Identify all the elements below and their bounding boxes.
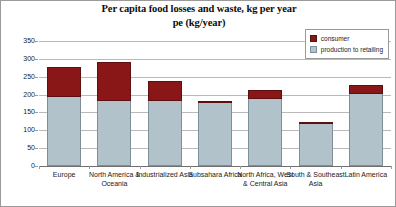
x-axis-tickmark (89, 166, 90, 169)
legend-swatch-consumer (310, 35, 317, 42)
chart-title-line-1: Per capita food losses and waste, kg per… (1, 2, 396, 16)
y-axis-tick-label-100: 100 (5, 126, 35, 133)
y-axis-tickmark-100 (35, 130, 38, 131)
bar-segment-production-to-retailing[interactable] (97, 100, 131, 166)
bar-segment-consumer[interactable] (47, 67, 81, 97)
bar-group[interactable] (47, 41, 81, 166)
bar-group[interactable] (349, 41, 383, 166)
chart-title-line-2: pe (kg/year) (1, 16, 396, 30)
y-axis-tickmark-250 (35, 77, 38, 78)
chart-title: Per capita food losses and waste, kg per… (1, 2, 396, 30)
x-axis-baseline (39, 166, 391, 167)
x-axis-tickmark (391, 166, 392, 169)
x-axis-label-6: Latin America (335, 171, 396, 180)
x-axis-tickmark (341, 166, 342, 169)
x-axis-tickmark (140, 166, 141, 169)
y-axis-tick-label-250: 250 (5, 73, 35, 80)
x-axis-tickmark (240, 166, 241, 169)
x-axis-tickmark (39, 166, 40, 169)
bar-group[interactable] (148, 41, 182, 166)
legend-item-consumer: consumer (310, 33, 383, 44)
bar-segment-consumer[interactable] (299, 122, 333, 124)
bar-segment-consumer[interactable] (248, 90, 282, 100)
chart-legend: consumer production to retailing (305, 29, 389, 59)
bar-segment-production-to-retailing[interactable] (349, 93, 383, 166)
y-axis-tick-label-0: 0 (5, 162, 35, 169)
y-axis-tickmark-150 (35, 112, 38, 113)
bar-segment-production-to-retailing[interactable] (198, 102, 232, 166)
bar-segment-consumer[interactable] (148, 81, 182, 101)
legend-swatch-production-to-retailing (310, 46, 317, 53)
y-axis-tick-label-150: 150 (5, 108, 35, 115)
x-axis-tickmark (190, 166, 191, 169)
y-axis-tickmark-200 (35, 95, 38, 96)
bar-segment-consumer[interactable] (198, 101, 232, 103)
legend-label-consumer: consumer (321, 35, 350, 42)
y-axis-tickmark-0 (35, 166, 38, 167)
bar-segment-production-to-retailing[interactable] (148, 100, 182, 166)
y-axis-tick-label-350: 350 (5, 37, 35, 44)
bar-segment-consumer[interactable] (349, 85, 383, 94)
bar-group[interactable] (198, 41, 232, 166)
bar-segment-production-to-retailing[interactable] (248, 98, 282, 166)
bar-segment-production-to-retailing[interactable] (299, 123, 333, 166)
chart-container: Per capita food losses and waste, kg per… (0, 0, 396, 207)
y-axis-tickmark-300 (35, 59, 38, 60)
bar-segment-consumer[interactable] (97, 62, 131, 101)
bar-group[interactable] (97, 41, 131, 166)
y-axis-tickmark-350 (35, 41, 38, 42)
bar-group[interactable] (248, 41, 282, 166)
plot-area (39, 41, 391, 166)
legend-label-production-to-retailing: production to retailing (321, 46, 383, 53)
y-axis-tick-label-200: 200 (5, 91, 35, 98)
y-axis-tickmark-50 (35, 148, 38, 149)
bar-segment-production-to-retailing[interactable] (47, 96, 81, 166)
y-axis-tick-label-300: 300 (5, 55, 35, 62)
bar-group[interactable] (299, 41, 333, 166)
x-axis-tickmark (290, 166, 291, 169)
y-axis-tick-label-50: 50 (5, 144, 35, 151)
y-axis: 050100150200250300350 (1, 41, 35, 166)
legend-item-production-to-retailing: production to retailing (310, 44, 383, 55)
